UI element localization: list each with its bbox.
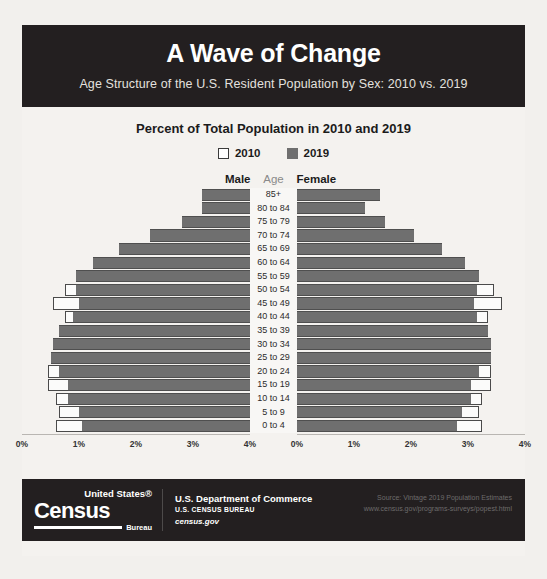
source-note: Source: Vintage 2019 Population Estimate… xyxy=(364,493,512,514)
pyramid-row-female xyxy=(297,365,525,379)
pyramid-row-female xyxy=(297,229,525,243)
footer-band: United States® Census Bureau U.S. Depart… xyxy=(22,479,525,541)
pyramid-row-male xyxy=(22,256,250,270)
pyramid-row-male xyxy=(22,378,250,392)
pyramid-row-male xyxy=(22,297,250,311)
pyramid-row-female xyxy=(297,392,525,406)
population-pyramid: 85+80 to 8475 to 7970 to 7465 to 6960 to… xyxy=(22,188,525,433)
bar-female-2019 xyxy=(297,325,488,337)
age-group-label: 50 to 54 xyxy=(250,283,297,297)
dept-line-website[interactable]: census.gov xyxy=(175,517,312,528)
legend-label-2010: 2010 xyxy=(235,147,261,159)
infographic-page: A Wave of Change Age Structure of the U.… xyxy=(22,25,525,556)
pyramid-row: 15 to 19 xyxy=(22,378,525,392)
dept-line-bureau: U.S. CENSUS BUREAU xyxy=(175,505,312,514)
bar-female-2019 xyxy=(297,216,385,228)
bar-female-2019 xyxy=(297,365,479,377)
x-axis: 4%3%2%1%0% 0%1%2%3%4% xyxy=(22,434,525,453)
axis-tick-label: 2% xyxy=(405,439,417,449)
bar-female-2019 xyxy=(297,202,365,214)
axis-tick-label: 3% xyxy=(462,439,474,449)
age-group-label: 35 to 39 xyxy=(250,324,297,338)
pyramid-row: 65 to 69 xyxy=(22,242,525,256)
header-band: A Wave of Change Age Structure of the U.… xyxy=(22,25,525,107)
page-title: A Wave of Change xyxy=(32,39,515,68)
bar-female-2019 xyxy=(297,311,477,323)
logo-line-bureau: Bureau xyxy=(126,524,152,532)
bar-male-2019 xyxy=(150,229,250,241)
bar-female-2019 xyxy=(297,284,477,296)
column-headers: Male Age Female xyxy=(22,173,525,185)
bar-female-2019 xyxy=(297,379,471,391)
pyramid-row-female xyxy=(297,351,525,365)
pyramid-row-female xyxy=(297,283,525,297)
bar-female-2019 xyxy=(297,420,457,432)
bar-female-2019 xyxy=(297,229,414,241)
age-group-label: 25 to 29 xyxy=(250,351,297,365)
pyramid-row: 0 to 4 xyxy=(22,419,525,433)
age-group-label: 15 to 19 xyxy=(250,378,297,392)
pyramid-row-female xyxy=(297,406,525,420)
axis-tick-label: 2% xyxy=(130,439,142,449)
pyramid-row-female xyxy=(297,378,525,392)
age-group-label: 60 to 64 xyxy=(250,256,297,270)
chart-title: Percent of Total Population in 2010 and … xyxy=(22,121,525,136)
census-logo: United States® Census Bureau xyxy=(34,489,163,531)
bar-male-2019 xyxy=(59,365,250,377)
bar-male-2019 xyxy=(73,311,250,323)
bar-male-2019 xyxy=(202,189,250,201)
pyramid-row-female xyxy=(297,256,525,270)
bar-male-2019 xyxy=(51,352,251,364)
pyramid-row-female xyxy=(297,310,525,324)
bar-male-2019 xyxy=(182,216,250,228)
bar-male-2019 xyxy=(202,202,250,214)
pyramid-row: 25 to 29 xyxy=(22,351,525,365)
pyramid-row-female xyxy=(297,188,525,202)
pyramid-row-male xyxy=(22,338,250,352)
axis-tick-label: 4% xyxy=(244,439,256,449)
chart-area: Percent of Total Population in 2010 and … xyxy=(22,107,525,479)
pyramid-row-female xyxy=(297,242,525,256)
pyramid-row-female xyxy=(297,419,525,433)
pyramid-row-male xyxy=(22,242,250,256)
bar-female-2019 xyxy=(297,352,491,364)
legend-swatch-2019-icon xyxy=(287,148,298,159)
age-group-label: 55 to 59 xyxy=(250,270,297,284)
axis-tick-label: 0% xyxy=(16,439,28,449)
pyramid-row: 55 to 59 xyxy=(22,270,525,284)
pyramid-row-male xyxy=(22,215,250,229)
x-axis-female: 0%1%2%3%4% xyxy=(297,434,525,453)
x-axis-male: 4%3%2%1%0% xyxy=(22,434,250,453)
bar-male-2019 xyxy=(119,243,250,255)
logo-line-bureau-row: Bureau xyxy=(34,524,152,532)
bar-female-2019 xyxy=(297,338,491,350)
age-group-label: 45 to 49 xyxy=(250,297,297,311)
pyramid-row: 35 to 39 xyxy=(22,324,525,338)
pyramid-row-female xyxy=(297,338,525,352)
age-group-label: 30 to 34 xyxy=(250,338,297,352)
pyramid-row: 70 to 74 xyxy=(22,229,525,243)
pyramid-row: 50 to 54 xyxy=(22,283,525,297)
pyramid-row-male xyxy=(22,270,250,284)
column-header-female: Female xyxy=(297,173,349,185)
pyramid-row: 85+ xyxy=(22,188,525,202)
page-subtitle: Age Structure of the U.S. Resident Popul… xyxy=(32,77,515,91)
bar-male-2019 xyxy=(76,284,250,296)
pyramid-row: 20 to 24 xyxy=(22,365,525,379)
axis-tick-label: 4% xyxy=(519,439,531,449)
source-line-2[interactable]: www.census.gov/programs-surveys/popest.h… xyxy=(364,504,512,515)
bar-male-2019 xyxy=(79,297,250,309)
pyramid-row-female xyxy=(297,324,525,338)
age-group-label: 5 to 9 xyxy=(250,406,297,420)
pyramid-row-male xyxy=(22,229,250,243)
axis-tick-label: 1% xyxy=(73,439,85,449)
dept-line-commerce: U.S. Department of Commerce xyxy=(175,493,312,506)
column-header-age: Age xyxy=(251,173,297,185)
bar-male-2019 xyxy=(76,270,250,282)
department-block: U.S. Department of Commerce U.S. CENSUS … xyxy=(175,493,312,528)
age-group-label: 20 to 24 xyxy=(250,365,297,379)
bar-female-2019 xyxy=(297,270,479,282)
bar-female-2019 xyxy=(297,257,465,269)
pyramid-row: 10 to 14 xyxy=(22,392,525,406)
bar-male-2019 xyxy=(93,257,250,269)
